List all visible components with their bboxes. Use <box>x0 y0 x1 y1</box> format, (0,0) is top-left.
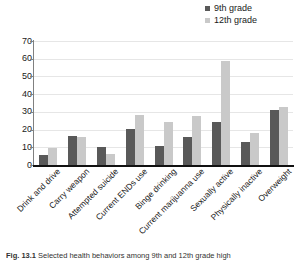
bar <box>97 147 106 165</box>
bar-group <box>34 41 63 165</box>
y-axis-tick-label: 30 <box>10 107 32 116</box>
y-axis-tick-label: 0 <box>10 161 32 170</box>
caption-label: Fig. 13.1 <box>6 251 36 260</box>
x-axis-label: Current ENDs use <box>94 167 149 222</box>
y-axis-tick-label: 40 <box>10 90 32 99</box>
bar-group <box>63 41 92 165</box>
caption-text: Selected health behaviors among 9th and … <box>38 251 231 260</box>
bar-group <box>235 41 264 165</box>
y-axis-tick-label: 50 <box>10 72 32 81</box>
y-axis-tick-label: 60 <box>10 54 32 63</box>
y-axis-tick-mark <box>30 41 33 42</box>
bar <box>155 146 164 165</box>
bar <box>39 155 48 165</box>
bar-group <box>264 41 293 165</box>
bar-group <box>92 41 121 165</box>
legend-swatch-9th-grade <box>205 6 210 11</box>
y-axis-tick-label: 10 <box>10 143 32 152</box>
bar <box>126 129 135 165</box>
bar <box>212 122 221 165</box>
bar <box>183 137 192 165</box>
legend-item-9th-grade: 9th grade <box>205 3 301 14</box>
bar <box>68 136 77 165</box>
legend-label-9th-grade: 9th grade <box>214 4 252 13</box>
x-axis-labels: Drink and driveCarry weaponAttempted sui… <box>34 167 293 247</box>
y-axis-tick-mark <box>30 147 33 148</box>
bar <box>135 115 144 165</box>
y-axis-tick-mark <box>30 59 33 60</box>
y-axis-tick-mark <box>30 112 33 113</box>
bar <box>48 148 57 165</box>
y-axis-tick-label: 70 <box>10 37 32 46</box>
bar-group <box>178 41 207 165</box>
bar-group <box>149 41 178 165</box>
legend-item-12th-grade: 12th grade <box>205 15 301 26</box>
y-axis-tick-label: 20 <box>10 125 32 134</box>
bar <box>192 116 201 165</box>
bar <box>241 142 250 165</box>
y-axis-tick-mark <box>30 165 33 166</box>
x-axis-label: Physically inactive <box>209 167 264 222</box>
y-axis-tick-mark <box>30 130 33 131</box>
bar <box>106 154 115 165</box>
bar <box>221 61 230 165</box>
bar-group <box>120 41 149 165</box>
bar-group <box>207 41 236 165</box>
figure-caption: Fig. 13.1 Selected health behaviors amon… <box>6 251 301 261</box>
bar <box>250 133 259 165</box>
y-axis-tick-mark <box>30 94 33 95</box>
bar <box>77 137 86 165</box>
legend-swatch-12th-grade <box>205 18 210 23</box>
bar <box>279 107 288 165</box>
bar <box>164 122 173 165</box>
bar-groups <box>34 41 293 165</box>
legend-label-12th-grade: 12th grade <box>214 16 257 25</box>
y-axis-tick-mark <box>30 76 33 77</box>
figure-container: 9th grade 12th grade 010203040506070 Dri… <box>0 0 303 261</box>
chart-legend: 9th grade 12th grade <box>205 3 301 27</box>
bar <box>270 110 279 165</box>
